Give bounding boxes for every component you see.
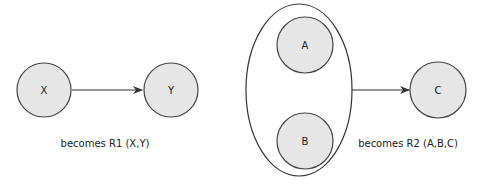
node-y: Y	[144, 63, 198, 117]
caption-r1: becomes R1 (X,Y)	[61, 138, 150, 149]
node-c-label: C	[435, 85, 442, 96]
node-a-label: A	[302, 40, 309, 51]
diagram-canvas: X Y becomes R1 (X,Y) A B C becomes R2 (A…	[0, 0, 483, 185]
node-x-label: X	[41, 85, 48, 96]
node-y-label: Y	[167, 85, 175, 96]
node-x: X	[17, 63, 71, 117]
node-b: B	[277, 113, 333, 169]
node-a: A	[277, 17, 333, 73]
caption-r2: becomes R2 (A,B,C)	[358, 138, 458, 149]
node-c: C	[410, 62, 466, 118]
node-b-label: B	[302, 136, 309, 147]
